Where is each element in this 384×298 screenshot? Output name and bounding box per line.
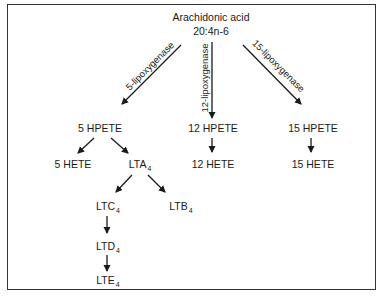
- lta4-subscript: 4: [147, 165, 151, 172]
- lte4-subscript: 4: [116, 281, 120, 288]
- node-5-hpete: 5 HPETE: [78, 123, 122, 134]
- arrow-lta4-to-ltc4: [116, 175, 132, 192]
- arachidonic-acid-formula: 20:4n-6: [193, 26, 229, 37]
- node-lta4: LTA4: [129, 159, 152, 172]
- node-12-hete: 12 HETE: [192, 159, 235, 170]
- node-ltc4: LTC4: [96, 201, 120, 214]
- ltd4-text: LTD: [96, 240, 115, 252]
- node-lte4: LTE4: [96, 275, 119, 288]
- lte4-text: LTE: [96, 274, 114, 286]
- arrow-5hpete-to-lta4: [111, 138, 128, 153]
- node-ltd4: LTD4: [96, 241, 120, 254]
- arrow-5hpete-to-5hete: [78, 138, 94, 153]
- node-15-hpete: 15 HPETE: [288, 123, 338, 134]
- arachidonic-acid-label: Arachidonic acid: [172, 12, 249, 23]
- node-5-hete: 5 HETE: [55, 159, 92, 170]
- node-ltb4: LTB4: [169, 201, 192, 214]
- node-12-hpete: 12 HPETE: [188, 123, 238, 134]
- arrow-lta4-to-ltb4: [148, 175, 165, 192]
- ltb4-text: LTB: [169, 200, 187, 212]
- ltb4-subscript: 4: [189, 207, 193, 214]
- ltd4-subscript: 4: [116, 247, 120, 254]
- node-15-hete: 15 HETE: [292, 159, 335, 170]
- arrow-5-lipoxygenase: [122, 45, 181, 104]
- arrows-layer: [0, 0, 384, 298]
- ltc4-text: LTC: [96, 200, 115, 212]
- lta4-text: LTA: [129, 158, 147, 170]
- ltc4-subscript: 4: [116, 207, 120, 214]
- enzyme-12-lipoxygenase-label: 12-lipoxygenase: [200, 43, 210, 112]
